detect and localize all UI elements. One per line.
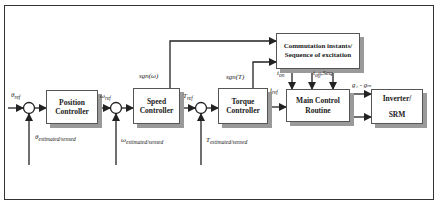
block-label: Routine bbox=[296, 106, 340, 115]
block-label: Controller bbox=[55, 107, 89, 116]
inverter-srm-block: Inverter/SRM bbox=[371, 89, 423, 124]
sgn-omega-label: sgn(ω) bbox=[139, 72, 158, 80]
block-label: Main Control bbox=[296, 96, 340, 105]
block-label: Torque bbox=[226, 97, 260, 106]
torque-controller-block: TorqueController bbox=[218, 88, 268, 124]
position-controller-block: PositionController bbox=[46, 90, 98, 124]
torque-feedback-label: Testimated/sensed bbox=[206, 136, 247, 145]
commutation-block: Commutation instants/Sequence of excitat… bbox=[276, 33, 360, 69]
speed-controller-block: SpeedController bbox=[133, 88, 180, 124]
theta-ref-label: θref bbox=[11, 91, 20, 100]
block-label: Commutation instants/ bbox=[284, 42, 353, 51]
block-label: Position bbox=[55, 98, 89, 107]
t-ref-label: Tref bbox=[183, 92, 193, 101]
block-label: Controller bbox=[226, 106, 260, 115]
theta-feedback-label: θestimated/sensed bbox=[35, 133, 76, 142]
sgn-t-label: sgn(T) bbox=[226, 73, 244, 81]
block-label: Speed bbox=[140, 97, 174, 106]
block-label: Inverter/ bbox=[383, 94, 412, 103]
block-label: SRM bbox=[383, 110, 412, 119]
i-ref-label: iref bbox=[270, 86, 278, 95]
block-label: Sequence of excitation bbox=[284, 51, 353, 60]
omega-ref-label: ωref bbox=[100, 92, 111, 101]
block-label: Controller bbox=[140, 106, 174, 115]
gate-signals-label: g₁ - gₘ bbox=[352, 81, 372, 89]
t-on-label: ton bbox=[277, 69, 284, 78]
t-off-seq-label: toff,Seq bbox=[313, 69, 333, 78]
main-control-routine-block: Main ControlRoutine bbox=[286, 89, 350, 122]
control-block-diagram: PositionController SpeedController Torqu… bbox=[0, 0, 442, 206]
omega-feedback-label: ωestimated/sensed bbox=[121, 136, 163, 145]
